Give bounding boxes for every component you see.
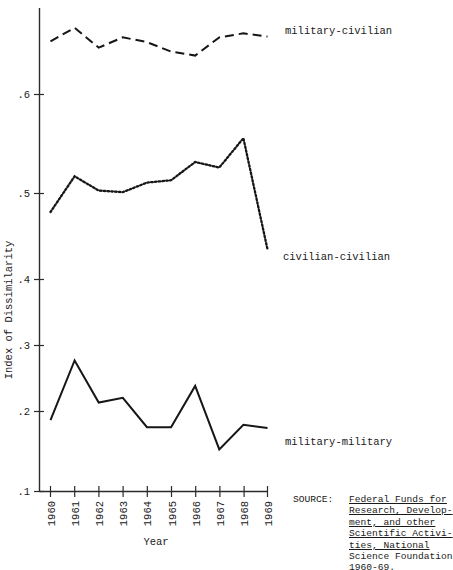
source-line-1: Federal Funds for — [349, 494, 441, 505]
source-line-2: Research, Develop- — [349, 505, 441, 516]
x-tick-label-1964: 1964 — [142, 501, 154, 526]
source-label: SOURCE: — [293, 494, 333, 505]
series-label-civilian-civilian: civilian-civilian — [283, 251, 390, 263]
y-tick-label-04: .4 — [17, 274, 30, 286]
x-tick-label-1962: 1962 — [94, 501, 106, 526]
y-tick-label-03: .3 — [17, 340, 30, 352]
x-tick-label-1960: 1960 — [46, 501, 58, 526]
x-tick-label-1965: 1965 — [167, 501, 179, 526]
source-body: Federal Funds for Research, Develop- men… — [349, 494, 441, 570]
series-line-military-civilian — [51, 28, 268, 56]
y-tick-label-05: .5 — [17, 188, 30, 200]
x-tick-label-1961: 1961 — [70, 501, 82, 526]
x-tick-label-1969: 1969 — [263, 501, 275, 526]
x-tick-label-1966: 1966 — [191, 501, 203, 526]
source-line-3: ment, and other — [349, 517, 441, 528]
x-axis-title: Year — [143, 536, 168, 548]
x-tick-label-1967: 1967 — [215, 501, 227, 526]
series-label-military-military: military-military — [285, 436, 392, 448]
source-line-5: ties, National — [349, 540, 441, 551]
x-tick-label-1968: 1968 — [239, 501, 251, 526]
source-line-6: Science Foundation — [349, 551, 441, 562]
source-line-7: 1960-69. — [349, 562, 441, 570]
y-tick-label-06: .6 — [17, 89, 30, 101]
y-axis-title: Index of Dissimilarity — [3, 241, 15, 380]
series-line-civilian-civilian — [51, 138, 268, 249]
x-tick-label-1963: 1963 — [118, 501, 130, 526]
y-tick-label-02: .2 — [17, 406, 30, 418]
source-line-4: Scientific Activi- — [349, 528, 441, 539]
series-label-military-civilian: military-civilian — [285, 25, 392, 37]
series-line-military-military — [51, 360, 268, 449]
y-tick-label-01: .1 — [17, 486, 30, 498]
